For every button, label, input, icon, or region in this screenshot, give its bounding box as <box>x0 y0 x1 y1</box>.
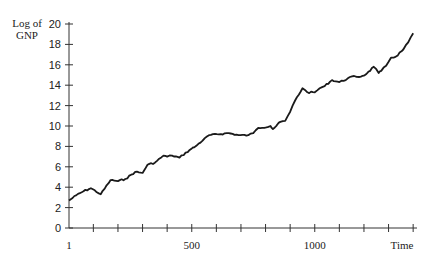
y-tick-label: 14 <box>49 79 61 91</box>
x-tick-label: 1000 <box>304 239 327 251</box>
x-tick-label: 500 <box>184 239 201 251</box>
y-tick-label: 4 <box>55 181 61 193</box>
x-tick-label: 1 <box>66 239 72 251</box>
plot-area: 02468101214161820 15001000 Time <box>0 0 442 262</box>
y-tick-label: 20 <box>49 18 61 30</box>
axes <box>69 22 417 228</box>
y-tick-label: 6 <box>55 161 61 173</box>
y-tick-label: 12 <box>49 100 61 112</box>
gnp-line-chart: Log of GNP 02468101214161820 15001000 Ti… <box>0 0 442 262</box>
y-axis-title-line1: Log of <box>6 17 48 29</box>
y-tick-label: 16 <box>49 59 61 71</box>
series-line <box>69 33 413 200</box>
y-tick-label: 8 <box>55 140 61 152</box>
y-tick-label: 2 <box>55 202 61 214</box>
y-tick-label: 10 <box>49 120 61 132</box>
x-axis-title: Time <box>391 239 414 251</box>
y-axis-title: Log of GNP <box>6 17 48 41</box>
y-tick-label: 18 <box>49 38 61 50</box>
y-axis-title-line2: GNP <box>6 29 48 41</box>
y-tick-label: 0 <box>55 222 61 234</box>
